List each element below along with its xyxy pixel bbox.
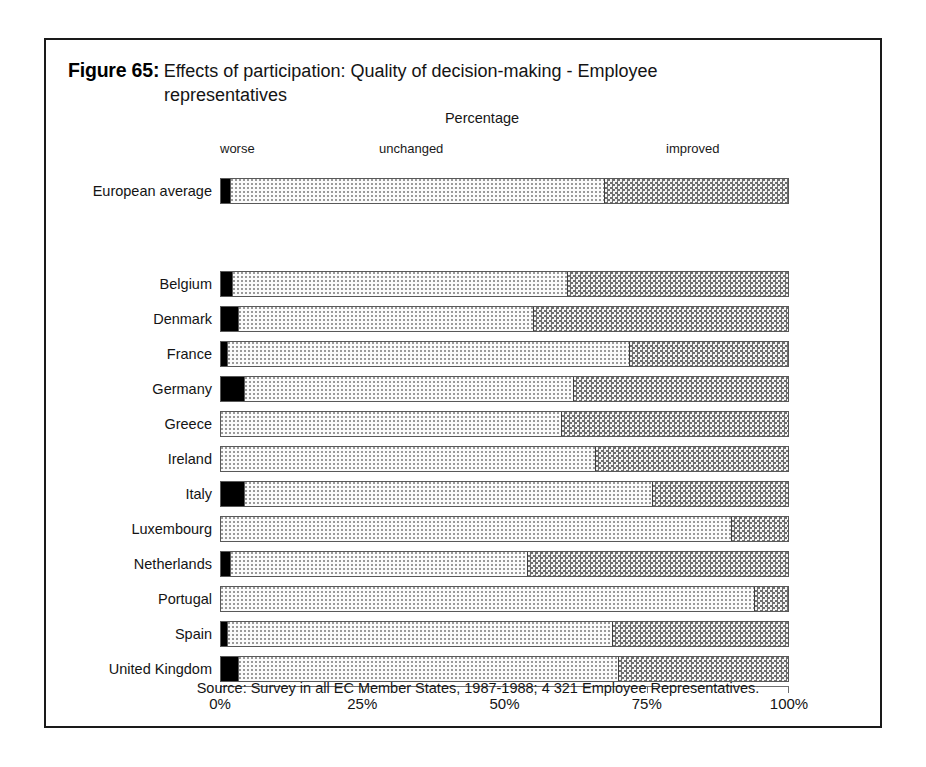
x-axis-tick-label: 25% <box>347 695 377 712</box>
bar-segment-improved <box>612 622 788 646</box>
bar-row: Germany <box>46 376 880 402</box>
bar-segment-improved <box>618 657 788 681</box>
bar-row: France <box>46 341 880 367</box>
bar-row: Netherlands <box>46 551 880 577</box>
bar-segment-unchanged <box>230 179 604 203</box>
source-note: Source: Survey in all EC Member States, … <box>46 680 880 696</box>
bar-segment-unchanged <box>221 412 561 436</box>
legend-label-worse: worse <box>220 141 255 156</box>
bar-row: Greece <box>46 411 880 437</box>
chart-plot-area: worse unchanged improved European averag… <box>46 40 880 726</box>
bar-segment-unchanged <box>238 657 618 681</box>
bar-segment-worse <box>221 179 230 203</box>
bar-segment-unchanged <box>230 552 528 576</box>
x-axis-tick-label: 0% <box>209 695 231 712</box>
legend-label-unchanged: unchanged <box>379 141 443 156</box>
stacked-bar <box>220 621 789 647</box>
bar-row-label: Belgium <box>46 271 212 297</box>
bar-row: United Kingdom <box>46 656 880 682</box>
legend-label-improved: improved <box>666 141 719 156</box>
bar-row: Spain <box>46 621 880 647</box>
bar-row: Luxembourg <box>46 516 880 542</box>
bar-segment-unchanged <box>238 307 533 331</box>
bar-segment-improved <box>527 552 788 576</box>
bar-row-label: Denmark <box>46 306 212 332</box>
bar-row: Ireland <box>46 446 880 472</box>
bar-row-label: United Kingdom <box>46 656 212 682</box>
bar-row-label: Germany <box>46 376 212 402</box>
bar-segment-unchanged <box>244 482 652 506</box>
stacked-bar <box>220 446 789 472</box>
bar-row-label: France <box>46 341 212 367</box>
bar-row-label: Netherlands <box>46 551 212 577</box>
bar-segment-improved <box>533 307 788 331</box>
bar-row-label: Spain <box>46 621 212 647</box>
x-axis-tick-label: 75% <box>632 695 662 712</box>
stacked-bar <box>220 551 789 577</box>
bar-segment-improved <box>561 412 788 436</box>
bar-segment-improved <box>573 377 788 401</box>
bar-row-label: Greece <box>46 411 212 437</box>
bar-segment-worse <box>221 307 238 331</box>
bar-row-label: Luxembourg <box>46 516 212 542</box>
bar-segment-unchanged <box>227 342 630 366</box>
stacked-bar <box>220 481 789 507</box>
bar-segment-improved <box>754 587 788 611</box>
bar-row: Portugal <box>46 586 880 612</box>
bar-segment-unchanged <box>244 377 573 401</box>
figure-frame: Figure 65: Effects of participation: Qua… <box>44 38 882 728</box>
bar-row-label: Italy <box>46 481 212 507</box>
bar-row-label: Portugal <box>46 586 212 612</box>
bar-segment-improved <box>629 342 788 366</box>
bar-segment-improved <box>652 482 788 506</box>
bar-row: Belgium <box>46 271 880 297</box>
bar-row-label: European average <box>46 178 212 204</box>
stacked-bar <box>220 656 789 682</box>
stacked-bar <box>220 411 789 437</box>
x-axis-tick-label: 100% <box>770 695 808 712</box>
bar-segment-unchanged <box>221 517 731 541</box>
bar-segment-unchanged <box>221 587 754 611</box>
bar-segment-unchanged <box>227 622 613 646</box>
bar-segment-improved <box>595 447 788 471</box>
bar-segment-improved <box>567 272 788 296</box>
bar-row-label: Ireland <box>46 446 212 472</box>
bar-segment-improved <box>604 179 788 203</box>
stacked-bar <box>220 341 789 367</box>
bar-row: Denmark <box>46 306 880 332</box>
source-note-text: Source: Survey in all EC Member States, … <box>197 680 760 696</box>
stacked-bar <box>220 178 789 204</box>
bar-segment-improved <box>731 517 788 541</box>
bar-segment-worse <box>221 377 244 401</box>
bar-segment-worse <box>221 482 244 506</box>
bar-segment-worse <box>221 657 238 681</box>
bar-segment-worse <box>221 552 230 576</box>
stacked-bar <box>220 376 789 402</box>
bar-segment-unchanged <box>221 447 595 471</box>
bar-row: European average <box>46 178 880 204</box>
stacked-bar <box>220 271 789 297</box>
stacked-bar <box>220 306 789 332</box>
x-axis-tick-label: 50% <box>489 695 519 712</box>
stacked-bar <box>220 516 789 542</box>
bar-row: Italy <box>46 481 880 507</box>
stacked-bar <box>220 586 789 612</box>
bar-segment-worse <box>221 272 232 296</box>
bar-segment-unchanged <box>232 272 567 296</box>
